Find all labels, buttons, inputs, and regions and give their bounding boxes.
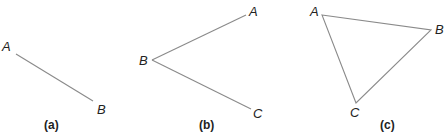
triangle-abc (322, 15, 431, 103)
point-label-b: B (97, 102, 106, 117)
segment-bc (152, 60, 251, 109)
segment-ab (16, 54, 93, 101)
point-label-c: C (253, 106, 263, 121)
figure-a-line-segment: A B (a) (1, 39, 106, 132)
point-label-b: B (139, 53, 148, 68)
caption-c: (c) (380, 118, 395, 132)
point-label-c: C (350, 105, 360, 120)
figure-b-angle: B A C (b) (139, 4, 263, 132)
segment-ba (152, 15, 246, 60)
figure-c-triangle: A B C (c) (309, 4, 444, 132)
point-label-a: A (248, 4, 258, 19)
point-label-a: A (1, 39, 11, 54)
geometry-figures: A B (a) B A C (b) A B C (c) (0, 0, 447, 138)
caption-a: (a) (44, 118, 59, 132)
point-label-b: B (435, 22, 444, 37)
caption-b: (b) (199, 118, 214, 132)
point-label-a: A (309, 4, 319, 19)
